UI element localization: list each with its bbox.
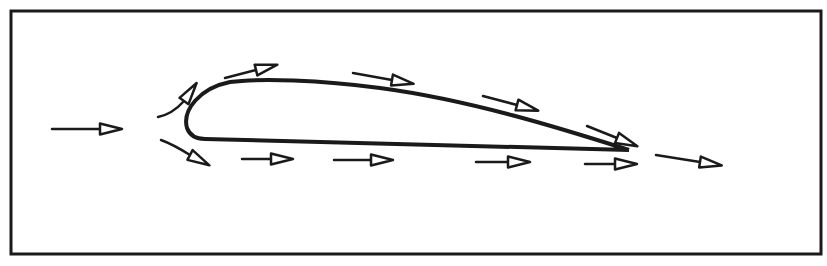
lower-arrow-4 [585, 159, 637, 170]
lower-arrow-3 [476, 157, 530, 168]
wake-arrow [656, 155, 723, 171]
frame-border [11, 11, 821, 254]
arrowhead-icon [271, 154, 293, 165]
arrow-shaft [158, 101, 184, 117]
arrowhead-icon [371, 155, 393, 166]
arrowhead-icon [255, 59, 279, 75]
diagram-canvas [0, 0, 827, 266]
arrowhead-icon [391, 75, 415, 90]
arrowhead-icon [699, 157, 722, 171]
lower-arrow-2 [334, 155, 393, 166]
arrowhead-icon [187, 150, 212, 170]
arrowhead-icon [508, 157, 530, 168]
arrow-shaft [353, 73, 392, 80]
arrow-shaft [483, 96, 517, 105]
arrow-shaft [656, 155, 700, 162]
lower-arrow-1 [242, 154, 293, 165]
arrow-shaft [161, 140, 190, 155]
airfoil-flow-diagram [0, 0, 827, 266]
arrow-shaft [225, 70, 256, 78]
arrowhead-icon [516, 100, 540, 116]
airfoil-outline [186, 80, 629, 150]
lower-leading-arrow [161, 140, 212, 170]
arrowhead-icon [100, 124, 122, 135]
upper-arrow-1 [225, 59, 279, 78]
arrowhead-icon [615, 159, 637, 170]
freestream-arrow [52, 124, 122, 135]
